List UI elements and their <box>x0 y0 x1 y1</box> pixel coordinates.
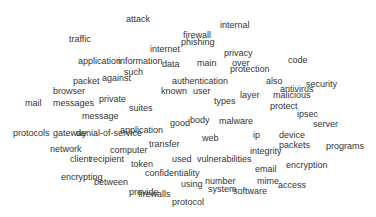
word-mail: mail <box>25 99 42 108</box>
word-code: code <box>288 56 308 65</box>
word-mime: mime <box>257 177 279 186</box>
word-server: server <box>313 120 338 129</box>
word-confidentiality: confidentiality <box>145 169 200 178</box>
word-application: application <box>120 126 163 135</box>
word-protocols: protocols <box>13 129 50 138</box>
word-recipient: recipient <box>90 155 124 164</box>
word-used: used <box>172 155 192 164</box>
word-transfer: transfer <box>149 140 180 149</box>
word-data: data <box>162 60 180 69</box>
word-email: email <box>255 165 277 174</box>
word-device: device <box>279 131 305 140</box>
word-internet: internet <box>150 45 180 54</box>
word-message: message <box>82 112 119 121</box>
word-user: user <box>193 87 211 96</box>
word-ipsec: ipsec <box>297 110 318 119</box>
word-web: web <box>202 134 219 143</box>
word-privacy: privacy <box>224 49 253 58</box>
word-access: access <box>278 181 306 190</box>
word-information: information <box>118 57 163 66</box>
word-messages: messages <box>53 99 94 108</box>
word-network: network <box>50 145 82 154</box>
word-protect: protect <box>270 102 298 111</box>
word-suites: suites <box>129 104 153 113</box>
word-against: against <box>102 74 131 83</box>
word-using: using <box>181 180 203 189</box>
word-good: good <box>170 119 190 128</box>
word-programs: programs <box>326 142 364 151</box>
word-phishing: phishing <box>181 38 215 47</box>
word-firewalls: firewalls <box>138 190 171 199</box>
word-software: software <box>233 187 267 196</box>
word-known: known <box>161 87 187 96</box>
word-protocol: protocol <box>172 198 204 207</box>
word-main: main <box>197 59 217 68</box>
word-types: types <box>214 97 236 106</box>
word-malware: malware <box>219 117 253 126</box>
word-internal: internal <box>220 21 250 30</box>
word-client: client <box>70 155 91 164</box>
word-packet: packet <box>73 77 100 86</box>
word-between: between <box>94 178 128 187</box>
word-cloud: attackinternaltrafficfirewallphishingint… <box>0 0 376 217</box>
word-attack: attack <box>126 15 150 24</box>
word-malicious: malicious <box>273 91 311 100</box>
word-packets: packets <box>279 141 310 150</box>
word-vulnerabilities: vulnerabilities <box>197 155 252 164</box>
word-authentication: authentication <box>172 77 228 86</box>
word-protection: protection <box>230 65 270 74</box>
word-private: private <box>99 95 126 104</box>
word-ip: ip <box>253 131 260 140</box>
word-body: body <box>190 116 210 125</box>
word-layer: layer <box>240 91 260 100</box>
word-traffic: traffic <box>69 35 91 44</box>
word-browser: browser <box>53 87 85 96</box>
word-encryption: encryption <box>286 161 328 170</box>
word-application: application <box>78 57 121 66</box>
word-integrity: integrity <box>250 147 282 156</box>
